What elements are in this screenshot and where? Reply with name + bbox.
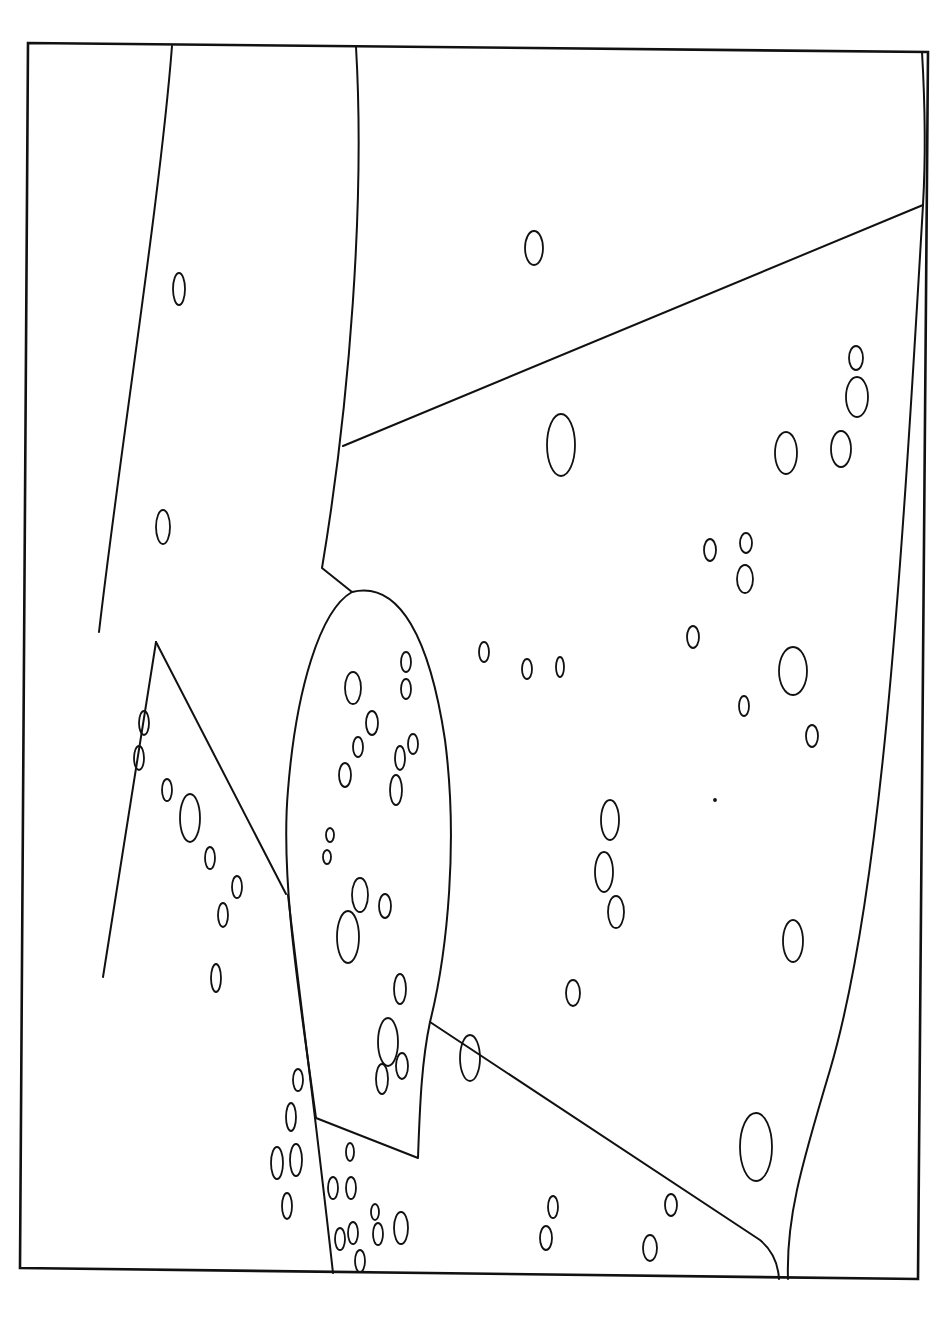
ellipse (740, 533, 752, 553)
ellipse (739, 696, 749, 716)
diagram-canvas (0, 0, 937, 1329)
ellipse (525, 231, 543, 265)
ellipse (665, 1194, 677, 1216)
ellipse (783, 920, 803, 962)
region-boundaries (99, 46, 925, 1279)
ellipse (548, 1196, 558, 1218)
ellipse (394, 974, 406, 1004)
ellipse (348, 1222, 358, 1244)
central-blob (286, 590, 451, 1158)
ellipse (595, 852, 613, 892)
outer-frame (20, 43, 928, 1279)
ellipse (390, 775, 402, 805)
ellipse (547, 414, 575, 476)
ellipse (328, 1177, 338, 1199)
ellipse (394, 1212, 408, 1244)
ellipse (376, 1064, 388, 1094)
ellipse (353, 737, 363, 757)
ellipse (345, 672, 361, 704)
ellipse (460, 1035, 480, 1081)
ellipse (408, 734, 418, 754)
ellipse (401, 652, 411, 672)
triangle-left (103, 642, 156, 977)
ellipse (479, 642, 489, 662)
ellipse (352, 878, 368, 912)
lower-left-boundary (288, 895, 333, 1273)
ellipse (286, 1103, 296, 1131)
ellipse (775, 432, 797, 474)
upper-diagonal (343, 205, 923, 446)
ellipse (378, 1018, 398, 1066)
right-thin-sliver (922, 52, 925, 205)
ellipse (339, 763, 351, 787)
ellipse (401, 679, 411, 699)
ellipse (704, 539, 716, 561)
ellipse (396, 1053, 408, 1079)
ellipse (337, 911, 359, 963)
ellipse (714, 799, 716, 801)
ellipse (211, 964, 221, 992)
ellipse (355, 1250, 365, 1272)
ellipse (293, 1069, 303, 1091)
ellipse (373, 1223, 383, 1245)
ellipse (540, 1226, 552, 1250)
ellipse (522, 659, 532, 679)
ellipse (737, 565, 753, 593)
ellipse (326, 828, 334, 842)
ellipse (271, 1147, 283, 1179)
ellipse (556, 657, 564, 677)
ellipse-group (134, 231, 868, 1272)
ellipse (366, 711, 378, 735)
ellipse (849, 346, 863, 370)
ellipse (395, 746, 405, 770)
ellipse (346, 1177, 356, 1199)
ellipse (779, 647, 807, 695)
ellipse (379, 894, 391, 918)
right-long-curve (788, 205, 923, 1279)
ellipse (156, 510, 170, 544)
ellipse (831, 431, 851, 467)
ellipse (205, 847, 215, 869)
ellipse (643, 1235, 657, 1261)
ellipse (282, 1193, 292, 1219)
lower-diagonal (430, 1022, 779, 1279)
ellipse (846, 377, 868, 417)
triangle-right (156, 642, 286, 894)
ellipse (335, 1228, 345, 1250)
ellipse (173, 273, 185, 305)
ellipse (162, 779, 172, 801)
ellipse (608, 896, 624, 928)
left-band-right-edge (322, 47, 359, 592)
ellipse (346, 1143, 354, 1161)
ellipse (180, 794, 200, 842)
ellipse (566, 980, 580, 1006)
ellipse (290, 1144, 302, 1176)
ellipse (232, 876, 242, 898)
ellipse (687, 626, 699, 648)
ellipse (740, 1113, 772, 1181)
ellipse (323, 850, 331, 864)
ellipse (601, 800, 619, 840)
ellipse (806, 725, 818, 747)
ellipse (371, 1204, 379, 1220)
ellipse (218, 903, 228, 927)
